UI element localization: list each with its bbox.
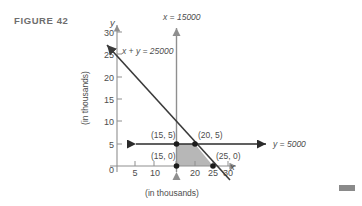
vertex-point-15-5 <box>174 141 180 147</box>
y-axis-variable-label: y <box>109 17 116 28</box>
x-tick-label-5: 5 <box>132 168 137 178</box>
vertex-label-20-5: (20, 5) <box>198 130 223 140</box>
x-tick-label-10: 10 <box>150 168 160 178</box>
y-tick-label-15: 15 <box>104 95 114 105</box>
y-axis-title: (in thousands) <box>80 71 90 125</box>
vertex-label-25-0: (25, 0) <box>216 151 241 161</box>
label-x-equals-15000: x = 15000 <box>162 12 201 22</box>
label-x-plus-y-equals-25000: x + y = 25000 <box>121 46 174 56</box>
y-tick-label-0: 0 <box>109 165 114 175</box>
vertex-label-15-5: (15, 5) <box>151 130 176 140</box>
y-tick-label-10: 10 <box>104 117 114 127</box>
vertex-point-15-0 <box>174 163 180 169</box>
x-tick-label-25: 25 <box>208 168 218 178</box>
y-tick-label-5: 5 <box>109 140 114 150</box>
vertex-label-15-0: (15, 0) <box>151 151 176 161</box>
label-y-equals-5000: y = 5000 <box>272 139 306 149</box>
x-axis-title: (in thousands) <box>145 188 199 198</box>
y-tick-label-30: 30 <box>104 28 114 38</box>
vertex-point-25-0 <box>210 163 216 169</box>
x-tick-label-20: 20 <box>190 168 200 178</box>
coordinate-plot: y x 30 25 20 15 10 5 0 5 10 20 25 <box>0 0 362 206</box>
y-tick-label-20: 20 <box>104 73 114 83</box>
vertex-point-20-5 <box>192 141 198 147</box>
figure-container: FIGURE 42 y x <box>0 0 362 206</box>
corner-marker <box>339 185 355 191</box>
